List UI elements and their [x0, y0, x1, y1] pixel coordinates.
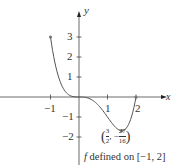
minimum-point-annotation: (32, −2716) — [101, 128, 130, 145]
x-axis-label: x — [166, 92, 170, 102]
y-tick-label-2: 2 — [67, 51, 73, 62]
y-tick-label-1: 1 — [67, 71, 73, 82]
x-tick-label-2: 2 — [135, 103, 141, 114]
point-marker — [134, 95, 137, 98]
paren-close: ) — [126, 129, 131, 144]
tick-marks — [51, 37, 137, 137]
point-marker — [49, 35, 52, 38]
x-tick-label-neg1: −1 — [44, 103, 56, 114]
y-tick-label-neg2: −2 — [62, 131, 74, 142]
fraction-y: 2716 — [119, 128, 126, 145]
y-tick-label-3: 3 — [67, 31, 73, 42]
x-tick-label-1: 1 — [105, 103, 111, 114]
function-plot — [0, 0, 171, 167]
y-axis-label: y — [84, 5, 89, 16]
y-axis-arrow-icon — [77, 11, 81, 17]
y-tick-label-neg1: −1 — [62, 111, 74, 122]
domain-caption: f defined on [−1, 2] — [84, 152, 165, 163]
